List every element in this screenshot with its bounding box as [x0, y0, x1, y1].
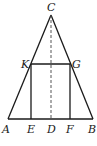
label-g: G — [72, 58, 81, 71]
segment-ac — [8, 15, 51, 119]
label-e: E — [26, 123, 35, 136]
label-d: D — [46, 123, 56, 136]
label-a: A — [1, 123, 10, 136]
label-b: B — [87, 123, 96, 136]
label-k: K — [20, 58, 30, 71]
label-c: C — [47, 1, 56, 14]
geometry-diagram: C K G A E D F B — [0, 0, 97, 146]
label-f: F — [65, 123, 74, 136]
